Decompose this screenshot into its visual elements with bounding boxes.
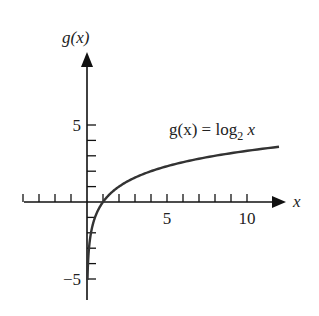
axes: [24, 52, 286, 300]
x-tick-label: 10: [239, 209, 256, 228]
x-tick-label: 5: [163, 209, 172, 228]
labels: g(x) x g(x) = log2 x: [62, 28, 301, 211]
x-axis-arrow-icon: [272, 196, 286, 208]
annotation-var: x: [243, 120, 255, 139]
x-axis-label: x: [292, 192, 301, 211]
y-axis-arrow-icon: [81, 52, 93, 67]
y-axis-label: g(x): [62, 28, 90, 47]
function-annotation: g(x) = log2 x: [169, 120, 255, 143]
y-tick-label: 5: [73, 116, 82, 135]
y-tick-label: −5: [63, 270, 81, 289]
annotation-lhs: g(x) = log: [169, 120, 238, 139]
log-function-chart: 5105−5 g(x) x g(x) = log2 x: [0, 0, 319, 316]
